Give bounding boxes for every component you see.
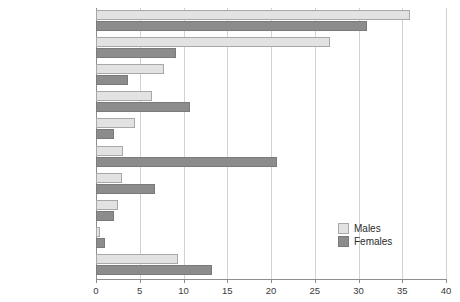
x-tick-label: 40 — [441, 285, 452, 296]
x-tick-label: 15 — [222, 285, 233, 296]
bar-group — [96, 64, 446, 86]
bar-chart: 0510152025303540 Sharp instrumentHitting… — [0, 0, 460, 302]
tick-mark-25 — [315, 279, 316, 283]
bar-group — [96, 118, 446, 140]
bar-females — [96, 157, 277, 167]
legend-swatch-females-icon — [338, 236, 349, 247]
bar-females — [96, 265, 212, 275]
legend-swatch-males-icon — [338, 223, 349, 234]
tick-mark-15 — [227, 279, 228, 283]
bar-females — [96, 48, 176, 58]
bar-females — [96, 21, 367, 31]
x-tick-label: 25 — [309, 285, 320, 296]
tick-mark-40 — [446, 279, 447, 283]
tick-mark-30 — [359, 279, 360, 283]
bar-males — [96, 200, 118, 210]
tick-mark-5 — [140, 279, 141, 283]
bar-group — [96, 10, 446, 32]
legend-label-females: Females — [354, 236, 392, 247]
tick-mark-20 — [271, 279, 272, 283]
bar-group — [96, 91, 446, 113]
bar-males — [96, 118, 135, 128]
bar-group — [96, 227, 446, 249]
bar-males — [96, 64, 164, 74]
bar-males — [96, 146, 123, 156]
bar-group — [96, 200, 446, 222]
tick-mark-10 — [184, 279, 185, 283]
bar-males — [96, 91, 152, 101]
chart-legend: Males Females — [338, 222, 392, 248]
legend-label-males: Males — [354, 223, 381, 234]
bar-females — [96, 211, 114, 221]
plot-area — [96, 8, 446, 279]
legend-item-males[interactable]: Males — [338, 222, 392, 235]
x-tick-label: 30 — [353, 285, 364, 296]
bar-group — [96, 254, 446, 276]
x-tick-label: 5 — [137, 285, 142, 296]
bar-males — [96, 173, 122, 183]
bar-females — [96, 238, 105, 248]
x-tick-label: 0 — [93, 285, 98, 296]
bar-group — [96, 37, 446, 59]
bar-females — [96, 75, 128, 85]
bar-group — [96, 146, 446, 168]
tick-mark-0 — [96, 279, 97, 283]
bar-group — [96, 173, 446, 195]
bar-females — [96, 102, 190, 112]
bar-males — [96, 37, 330, 47]
x-tick-label: 35 — [397, 285, 408, 296]
legend-item-females[interactable]: Females — [338, 235, 392, 248]
bar-males — [96, 227, 100, 237]
bar-males — [96, 10, 410, 20]
x-tick-label: 10 — [178, 285, 189, 296]
bar-females — [96, 129, 114, 139]
bar-males — [96, 254, 178, 264]
gridline-40 — [446, 8, 447, 279]
bar-females — [96, 184, 155, 194]
x-tick-label: 20 — [266, 285, 277, 296]
tick-mark-35 — [402, 279, 403, 283]
